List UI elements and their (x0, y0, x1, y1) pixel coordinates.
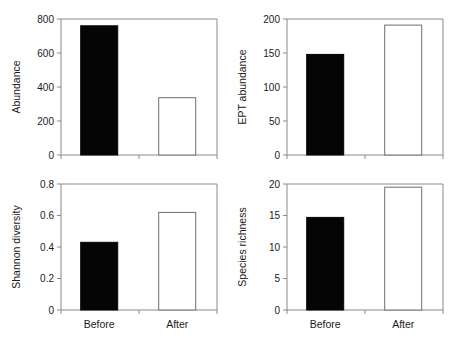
y-tick-label: 15 (269, 210, 281, 221)
bar-before (307, 217, 344, 310)
bar-after (159, 212, 196, 310)
x-category-label: Before (84, 318, 115, 330)
y-axis-title: EPT abundance (236, 49, 248, 124)
y-tick-label: 800 (37, 14, 54, 25)
y-tick-label: 5 (274, 273, 280, 284)
chart-panel-bottom-left: 00.20.40.60.8BeforeAfterShannon diversit… (0, 172, 226, 343)
y-tick-label: 0.4 (40, 242, 54, 253)
y-tick-label: 100 (263, 82, 280, 93)
chart-panel-top-left: 0200400600800Abundance (0, 0, 226, 171)
y-tick-label: 0 (48, 150, 54, 161)
x-category-label: Before (310, 318, 341, 330)
y-tick-label: 200 (37, 116, 54, 127)
y-axis-title: Species richness (236, 207, 248, 286)
x-category-label: After (392, 318, 415, 330)
y-tick-label: 0 (48, 305, 54, 316)
y-tick-label: 200 (263, 14, 280, 25)
bar-after (385, 25, 422, 155)
y-tick-label: 0 (274, 150, 280, 161)
y-tick-label: 400 (37, 82, 54, 93)
figure-panel-grid: 0200400600800Abundance 050100150200EPT a… (0, 0, 452, 343)
y-tick-label: 600 (37, 48, 54, 59)
y-tick-label: 0 (274, 305, 280, 316)
bar-before (307, 54, 344, 155)
x-category-label: After (166, 318, 189, 330)
y-axis-title: Abundance (10, 60, 22, 113)
y-tick-label: 150 (263, 48, 280, 59)
y-tick-label: 0.2 (40, 273, 54, 284)
chart-panel-top-right: 050100150200EPT abundance (226, 0, 452, 171)
y-axis-title: Shannon diversity (10, 205, 22, 289)
bar-after (159, 98, 196, 155)
y-tick-label: 0.6 (40, 210, 54, 221)
y-tick-label: 20 (269, 179, 281, 190)
bar-before (81, 242, 118, 310)
bar-after (385, 187, 422, 310)
bar-before (81, 26, 118, 155)
y-tick-label: 10 (269, 242, 281, 253)
y-tick-label: 50 (269, 116, 281, 127)
y-tick-label: 0.8 (40, 179, 54, 190)
chart-panel-bottom-right: 05101520BeforeAfterSpecies richness (226, 172, 452, 343)
